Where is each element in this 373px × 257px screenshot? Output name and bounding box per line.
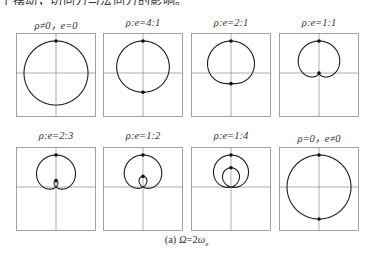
caption-label: (a) [165, 234, 177, 245]
panel-title: ρ:e=2:3 [11, 130, 101, 141]
point-marker [229, 82, 233, 86]
point-marker [317, 153, 321, 157]
axes [16, 33, 96, 117]
point-marker [141, 39, 145, 43]
point-marker [54, 153, 58, 157]
point-marker [317, 39, 321, 43]
axes [191, 33, 271, 117]
panel-title: ρ:e=1:4 [186, 130, 276, 141]
point-marker [317, 71, 321, 75]
trajectory-plot [191, 147, 271, 231]
trajectory-plot [279, 33, 359, 117]
point-marker [54, 39, 58, 43]
point-marker [141, 175, 145, 179]
point-marker [317, 217, 321, 221]
trajectory-plot [16, 33, 96, 117]
panel-title: ρ=0，e≠0 [274, 130, 364, 145]
trajectory-plot [103, 147, 183, 231]
header-text-fragment: 于摆动，切向力与法向力的影响。 [0, 0, 190, 5]
figure-caption: (a) Ω=2ωe [0, 234, 373, 248]
point-marker [141, 90, 145, 94]
axes [103, 147, 183, 231]
axes [16, 147, 96, 231]
caption-omega: Ω [179, 234, 187, 245]
panel-title: ρ:e=2:1 [186, 17, 276, 28]
trajectory-plot [191, 33, 271, 117]
point-marker [229, 153, 233, 157]
point-marker [229, 39, 233, 43]
panel-title: ρ:e=1:2 [98, 130, 188, 141]
panel-title: ρ:e=4:1 [98, 17, 188, 28]
caption-equals: =2 [187, 234, 198, 245]
point-marker [141, 153, 145, 157]
caption-subscript: e [205, 240, 208, 248]
axes [279, 33, 359, 117]
point-marker [229, 166, 233, 170]
trajectory-plot [16, 147, 96, 231]
trajectory-plot [279, 147, 359, 231]
axes [191, 147, 271, 231]
axes [103, 33, 183, 117]
trajectory-plot [103, 33, 183, 117]
point-marker [54, 179, 58, 183]
panel-title: ρ:e=1:1 [274, 17, 364, 28]
panel-title: ρ≠0，e=0 [11, 17, 101, 32]
